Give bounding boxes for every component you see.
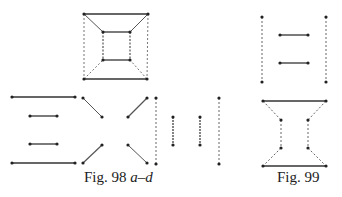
fig98c-graph bbox=[83, 98, 147, 163]
diagram-canvas bbox=[0, 0, 342, 197]
fig98-caption: Fig. 98 a–d bbox=[84, 169, 153, 186]
fig99-top-graph bbox=[262, 17, 326, 82]
fig98b-graph bbox=[12, 97, 75, 163]
fig98-caption-label: Fig. 98 bbox=[84, 169, 130, 185]
fig98a-graph bbox=[84, 14, 148, 79]
fig99-caption-label: Fig. 99 bbox=[277, 169, 320, 185]
fig99-caption: Fig. 99 bbox=[277, 169, 320, 186]
fig98-caption-range: a–d bbox=[130, 169, 153, 185]
graph-nodes bbox=[10, 12, 327, 167]
fig99-bottom-graph bbox=[263, 101, 326, 166]
fig98d-graph bbox=[156, 98, 219, 164]
